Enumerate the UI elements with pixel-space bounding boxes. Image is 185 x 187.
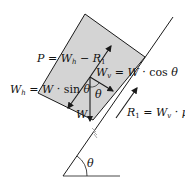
label-weight: W [76,108,89,121]
incline-angle-arc [77,156,87,176]
label-p-equation: P = Wh − R1 [36,52,105,66]
label-theta-incline: θ [87,157,94,170]
incline-diagram: P = Wh − R1 Wv = W · cos θ Wh = W · sin … [0,0,185,187]
label-r1-equation: R1 = Wv · μ [126,106,185,120]
label-theta-block: θ [95,88,102,101]
label-wh-equation: Wh = W · sin θ [10,83,91,97]
